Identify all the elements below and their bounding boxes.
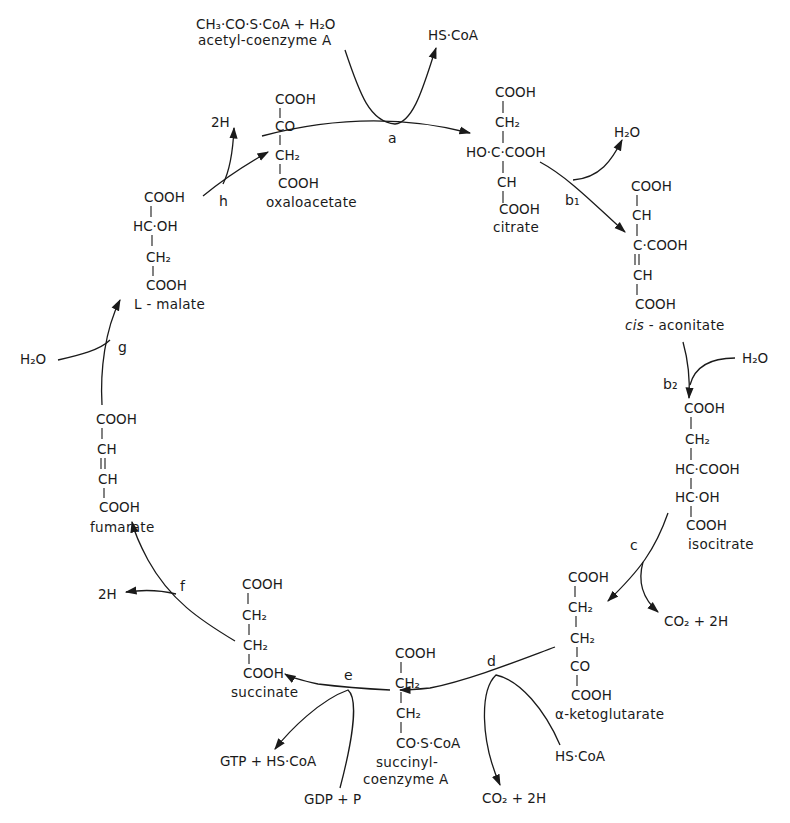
- fumarate-name: fumarate: [90, 519, 155, 535]
- step-c-label: c: [630, 537, 638, 553]
- step-a-side-arrow: [345, 48, 436, 124]
- step-c-arrow: [608, 513, 668, 601]
- svg-text:COOH: COOH: [275, 91, 316, 107]
- step-b1-product: H₂O: [614, 124, 640, 140]
- svg-text:CH: CH: [97, 441, 117, 457]
- svg-text:HO·C·COOH: HO·C·COOH: [466, 144, 546, 160]
- step-b2-side-arrow: [690, 358, 735, 385]
- acetyl-coa-name: acetyl-coenzyme A: [198, 32, 332, 48]
- alpha-ketoglutarate: COOH CH₂ CH₂ CO COOH α-ketoglutarate: [555, 569, 664, 722]
- isocitrate-name: isocitrate: [688, 536, 754, 552]
- svg-text:COOH: COOH: [686, 517, 727, 533]
- svg-text:CH: CH: [633, 267, 653, 283]
- svg-text:COOH: COOH: [631, 178, 672, 194]
- step-h-arrow: [203, 152, 268, 196]
- svg-text:CH₂: CH₂: [395, 675, 420, 691]
- svg-text:CH₂: CH₂: [275, 147, 300, 163]
- svg-text:CH₂: CH₂: [568, 599, 593, 615]
- step-h-product: 2H: [211, 114, 230, 130]
- fumarate: COOH CH CH COOH fumarate: [90, 411, 155, 535]
- svg-text:COOH: COOH: [146, 277, 187, 293]
- svg-text:CO: CO: [275, 118, 295, 134]
- alpha-ketoglutarate-name: α-ketoglutarate: [555, 706, 664, 722]
- svg-text:CH₂: CH₂: [146, 249, 171, 265]
- step-d-side-arrow: [484, 675, 560, 785]
- step-e-reactant: GDP + P: [304, 791, 361, 807]
- isocitrate: COOH CH₂ HC·COOH HC·OH COOH isocitrate: [675, 400, 754, 552]
- citrate: COOH CH₂ HO·C·COOH CH COOH citrate: [466, 84, 546, 235]
- svg-text:COOH: COOH: [568, 569, 609, 585]
- step-e-side-arrow: [275, 690, 353, 788]
- svg-text:coenzyme A: coenzyme A: [363, 771, 449, 787]
- step-g-reactant: H₂O: [20, 351, 46, 367]
- svg-text:COOH: COOH: [144, 189, 185, 205]
- step-d-reactant: HS·CoA: [555, 748, 606, 764]
- step-e-label: e: [344, 667, 353, 683]
- step-c-side-arrow: [641, 562, 658, 612]
- step-g-label: g: [118, 339, 127, 355]
- svg-text:CH₂: CH₂: [495, 114, 520, 130]
- svg-text:CH₂: CH₂: [685, 431, 710, 447]
- svg-text:HC·OH: HC·OH: [133, 218, 178, 234]
- step-g-side-arrow: [58, 340, 110, 360]
- acetyl-coa: CH₃·CO·S·CoA + H₂O acetyl-coenzyme A: [196, 16, 336, 48]
- step-f-product: 2H: [98, 586, 117, 602]
- krebs-cycle-diagram: CH₃·CO·S·CoA + H₂O acetyl-coenzyme A HS·…: [0, 0, 790, 823]
- step-b2-label: b₂: [663, 376, 678, 392]
- svg-text:CH₂: CH₂: [242, 607, 267, 623]
- svg-text:HC·COOH: HC·COOH: [675, 461, 740, 477]
- step-b1-label: b₁: [565, 192, 580, 208]
- step-a-label: a: [388, 130, 397, 146]
- citrate-name: citrate: [493, 219, 539, 235]
- svg-text:COOH: COOH: [684, 400, 725, 416]
- l-malate: COOH HC·OH CH₂ COOH L - malate: [133, 189, 205, 312]
- svg-text:CO: CO: [570, 658, 590, 674]
- svg-text:HC·OH: HC·OH: [675, 489, 720, 505]
- step-c-product: CO₂ + 2H: [664, 613, 728, 629]
- svg-text:COOH: COOH: [395, 645, 436, 661]
- svg-text:COOH: COOH: [99, 499, 140, 515]
- succinate-name: succinate: [231, 684, 298, 700]
- svg-text:COOH: COOH: [242, 576, 283, 592]
- svg-text:CH₂: CH₂: [243, 637, 268, 653]
- svg-text:CH: CH: [632, 207, 652, 223]
- svg-text:CH₂: CH₂: [396, 705, 421, 721]
- step-h-label: h: [219, 193, 228, 209]
- svg-text:CH: CH: [98, 471, 118, 487]
- step-b1-side-arrow: [573, 140, 622, 180]
- svg-text:COOH: COOH: [495, 84, 536, 100]
- svg-text:succinyl-: succinyl-: [376, 754, 438, 770]
- svg-text:COOH: COOH: [635, 296, 676, 312]
- svg-text:CO·S·CoA: CO·S·CoA: [396, 735, 461, 751]
- svg-text:C·COOH: C·COOH: [633, 237, 688, 253]
- svg-text:CH: CH: [497, 174, 517, 190]
- acetyl-coa-formula: CH₃·CO·S·CoA + H₂O: [196, 16, 336, 32]
- step-b2-arrow: [683, 342, 689, 398]
- step-d-product: CO₂ + 2H: [482, 790, 546, 806]
- svg-text:CH₂: CH₂: [570, 630, 595, 646]
- succinate: COOH CH₂ CH₂ COOH succinate: [231, 576, 298, 700]
- svg-text:COOH: COOH: [571, 687, 612, 703]
- step-b1-arrow: [540, 162, 625, 232]
- oxaloacetate-name: oxaloacetate: [266, 194, 357, 210]
- step-a-product: HS·CoA: [428, 27, 479, 43]
- step-f-side-arrow: [126, 591, 176, 594]
- cis-aconitate: COOH CH C·COOH CH COOH cis - aconitate: [625, 178, 725, 333]
- svg-text:COOH: COOH: [499, 201, 540, 217]
- step-d-label: d: [487, 653, 496, 669]
- svg-text:COOH: COOH: [278, 175, 319, 191]
- step-h-side-arrow: [223, 128, 234, 184]
- step-b2-reactant: H₂O: [742, 350, 768, 366]
- step-e-arrow: [285, 674, 390, 690]
- succinyl-coa: COOH CH₂ CH₂ CO·S·CoA succinyl- coenzyme…: [363, 645, 461, 787]
- step-e-product: GTP + HS·CoA: [220, 753, 317, 769]
- svg-text:COOH: COOH: [243, 665, 284, 681]
- l-malate-name: L - malate: [134, 296, 205, 312]
- oxaloacetate: COOH CO CH₂ COOH oxaloacetate: [266, 91, 357, 210]
- step-f-label: f: [180, 578, 186, 594]
- svg-text:COOH: COOH: [96, 411, 137, 427]
- cis-aconitate-name: cis - aconitate: [625, 317, 725, 333]
